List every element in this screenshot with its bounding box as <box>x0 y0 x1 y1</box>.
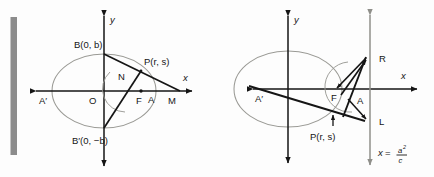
directrix-equation-numerator-exponent: 2 <box>402 144 406 150</box>
arrow-R-to-F <box>337 58 366 88</box>
left-point-label-O: O <box>89 95 96 106</box>
left-diagram: x y B(0, b) B′(0, −b) A′ O F A M N P(r, … <box>36 14 192 166</box>
figure-canvas: x y B(0, b) B′(0, −b) A′ O F A M N P(r, … <box>0 0 434 177</box>
left-point-label-Aprime: A′ <box>39 95 47 106</box>
right-x-axis-label: x <box>400 70 407 81</box>
point-F-dot <box>139 89 142 92</box>
right-y-axis-label: y <box>293 14 300 25</box>
right-point-label-Aprime: A′ <box>255 93 263 104</box>
right-point-label-A: A <box>357 95 364 106</box>
left-x-axis-label: x <box>182 72 189 83</box>
left-point-label-Bprime: B′(0, −b) <box>72 135 108 146</box>
geometry-figure: x y B(0, b) B′(0, −b) A′ O F A M N P(r, … <box>0 0 434 177</box>
directrix-equation-equals: = <box>385 147 391 158</box>
left-point-label-P: P(r, s) <box>144 56 169 67</box>
right-point-label-L: L <box>379 116 384 127</box>
left-point-label-F: F <box>136 95 142 106</box>
right-point-label-R: R <box>379 53 386 64</box>
left-margin-gray-bar <box>11 17 18 155</box>
left-point-label-B: B(0, b) <box>74 39 103 50</box>
right-diagram: x y A′ F A R L P(r, s) x = a 2 c <box>234 14 417 165</box>
directrix-equation: x = a 2 c <box>377 144 407 165</box>
point-P-dot <box>140 70 143 73</box>
left-point-label-M: M <box>168 95 176 106</box>
directrix-equation-numerator: a <box>398 146 402 155</box>
right-point-label-F: F <box>331 92 337 103</box>
right-point-label-P: P(r, s) <box>310 131 335 142</box>
directrix-equation-lhs: x <box>377 147 384 158</box>
left-point-label-A: A <box>148 94 155 105</box>
directrix-equation-denominator: c <box>399 156 403 165</box>
left-y-axis-label: y <box>109 14 116 25</box>
left-point-label-N: N <box>118 71 125 82</box>
